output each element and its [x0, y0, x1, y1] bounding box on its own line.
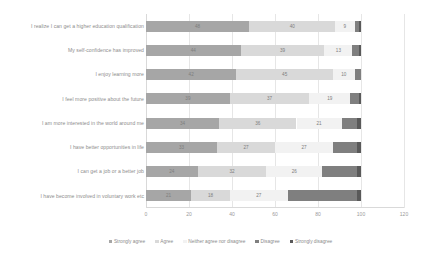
x-axis-line — [146, 207, 404, 208]
x-tick-label: 60 — [272, 211, 278, 218]
category-axis-labels: I realize I can get a higher education q… — [6, 14, 144, 208]
gridline — [189, 14, 190, 208]
bar-segment: 34 — [146, 118, 219, 129]
bar-segment: 45 — [236, 69, 333, 80]
legend-item[interactable]: Strongly disagree — [290, 232, 333, 250]
bar-value-label: 39 — [146, 93, 230, 104]
bar-row: 424510 — [146, 69, 404, 80]
chart-legend: Strongly agreeAgreeNeither agree nor dis… — [0, 231, 441, 250]
bar-value-label: 40 — [249, 21, 335, 32]
bar-segment — [357, 118, 361, 129]
bar-segment: 39 — [241, 45, 325, 56]
gridline — [232, 14, 233, 208]
bar-value-label: 18 — [191, 190, 230, 201]
bar-row: 243226 — [146, 166, 404, 177]
gridline — [404, 14, 405, 208]
bar-value-label: 27 — [275, 142, 333, 153]
bar-segment: 33 — [146, 142, 217, 153]
legend-item[interactable]: Neither agree nor disagree — [183, 232, 245, 250]
bar-segment — [357, 166, 361, 177]
x-tick-label: 0 — [145, 211, 148, 218]
bar-segment — [359, 21, 361, 32]
bar-value-label: 21 — [146, 190, 191, 201]
x-tick-label: 100 — [357, 211, 365, 218]
bar-segment: 37 — [230, 93, 310, 104]
x-tick-label: 40 — [229, 211, 235, 218]
bar-segment: 10 — [333, 69, 355, 80]
bar-segment — [333, 142, 357, 153]
x-tick-label: 120 — [400, 211, 408, 218]
bar-segment — [359, 45, 361, 56]
x-axis-tick-labels: 020406080100120 — [146, 209, 404, 221]
bar-segment: 24 — [146, 166, 198, 177]
bar-value-label: 13 — [324, 45, 352, 56]
legend-label: Neither agree nor disagree — [188, 239, 245, 245]
bar-segment — [355, 69, 361, 80]
bar-segment: 40 — [249, 21, 335, 32]
bar-value-label: 42 — [146, 69, 236, 80]
bar-segment — [322, 166, 356, 177]
bar-segment: 27 — [217, 142, 275, 153]
bar-segment — [359, 93, 361, 104]
bar-value-label: 26 — [266, 166, 322, 177]
bar-value-label: 21 — [297, 118, 342, 129]
bar-segment — [342, 118, 357, 129]
bar-segment: 48 — [146, 21, 249, 32]
bar-segment: 9 — [335, 21, 354, 32]
bar-segment: 36 — [219, 118, 296, 129]
legend-label: Agree — [160, 239, 173, 245]
bar-value-label: 27 — [230, 190, 288, 201]
gridline — [318, 14, 319, 208]
bar-row: 332727 — [146, 142, 404, 153]
bar-segment: 26 — [266, 166, 322, 177]
legend-item[interactable]: Agree — [155, 232, 173, 250]
bar-segment: 19 — [309, 93, 350, 104]
gridline — [275, 14, 276, 208]
bar-value-label: 32 — [198, 166, 267, 177]
category-label: I have become involved in voluntary work… — [6, 193, 144, 199]
bar-segment: 27 — [275, 142, 333, 153]
bar-row: 443913 — [146, 45, 404, 56]
category-label: I realize I can get a higher education q… — [6, 23, 144, 29]
bar-value-label: 19 — [309, 93, 350, 104]
legend-swatch-icon — [155, 240, 159, 244]
bar-segment: 32 — [198, 166, 267, 177]
bar-value-label: 24 — [146, 166, 198, 177]
bar-value-label: 48 — [146, 21, 249, 32]
bar-row: 343621 — [146, 118, 404, 129]
bar-row: 393719 — [146, 93, 404, 104]
bar-value-label: 9 — [335, 21, 354, 32]
category-label: I enjoy learning more — [6, 71, 144, 77]
bar-segment: 39 — [146, 93, 230, 104]
bar-segment: 18 — [191, 190, 230, 201]
bar-value-label: 27 — [217, 142, 275, 153]
legend-label: Strongly disagree — [295, 239, 332, 245]
legend-swatch-icon — [183, 240, 187, 244]
legend-label: Strongly agree — [114, 239, 145, 245]
x-tick-label: 20 — [186, 211, 192, 218]
legend-item[interactable]: Strongly agree — [109, 232, 145, 250]
bar-value-label: 34 — [146, 118, 219, 129]
bar-segment: 44 — [146, 45, 241, 56]
bar-segment — [357, 142, 361, 153]
x-tick-label: 80 — [315, 211, 321, 218]
legend-swatch-icon — [109, 240, 113, 244]
legend-swatch-icon — [290, 240, 294, 244]
category-label: I have better opportunities in life — [6, 144, 144, 150]
bar-segment — [288, 190, 357, 201]
bar-value-label: 10 — [333, 69, 355, 80]
bar-segment: 27 — [230, 190, 288, 201]
bar-value-label: 44 — [146, 45, 241, 56]
gridline — [361, 14, 362, 208]
bar-value-label: 37 — [230, 93, 310, 104]
bar-segment: 21 — [297, 118, 342, 129]
stacked-bar-chart: I realize I can get a higher education q… — [0, 0, 441, 259]
bar-segment: 42 — [146, 69, 236, 80]
category-label: I am more interested in the world around… — [6, 120, 144, 126]
legend-item[interactable]: Disagree — [255, 232, 279, 250]
legend-label: Disagree — [261, 239, 280, 245]
bar-segment — [357, 190, 361, 201]
bar-value-label: 39 — [241, 45, 325, 56]
category-label: I can get a job or a better job — [6, 168, 144, 174]
bar-value-label: 45 — [236, 69, 333, 80]
